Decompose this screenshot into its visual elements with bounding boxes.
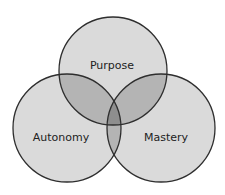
label-autonomy: Autonomy — [33, 131, 90, 144]
label-purpose: Purpose — [90, 59, 134, 72]
label-mastery: Mastery — [144, 131, 189, 144]
venn-diagram: Purpose Autonomy Mastery — [0, 0, 225, 195]
